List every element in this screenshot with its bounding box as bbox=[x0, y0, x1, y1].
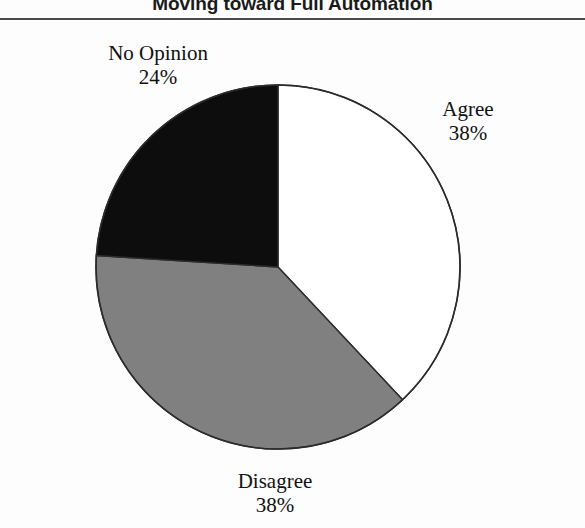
title-divider bbox=[0, 18, 585, 20]
pie-label-no-opinion-name: No Opinion bbox=[78, 42, 238, 66]
pie-label-agree-name: Agree bbox=[408, 98, 528, 122]
pie-label-disagree: Disagree 38% bbox=[195, 470, 355, 517]
pie-label-disagree-name: Disagree bbox=[195, 470, 355, 494]
pie-label-disagree-value: 38% bbox=[195, 494, 355, 518]
pie-slice-no-opinion bbox=[96, 85, 278, 267]
pie-label-agree: Agree 38% bbox=[408, 98, 528, 145]
pie-label-agree-value: 38% bbox=[408, 122, 528, 146]
pie-label-no-opinion-value: 24% bbox=[78, 66, 238, 90]
page-title: Moving toward Full Automation bbox=[0, 0, 585, 15]
pie-label-no-opinion: No Opinion 24% bbox=[78, 42, 238, 89]
chart-page: Moving toward Full Automation No Opinion… bbox=[0, 0, 585, 528]
